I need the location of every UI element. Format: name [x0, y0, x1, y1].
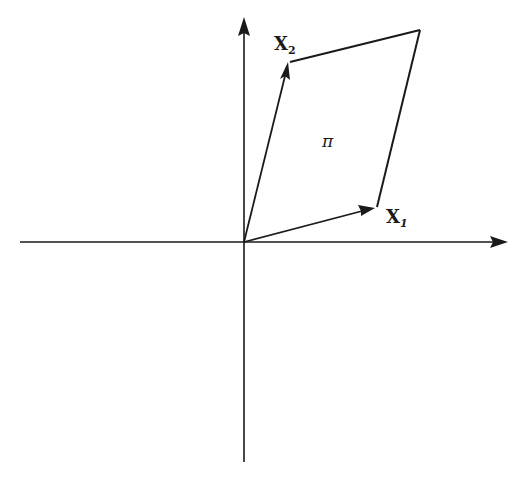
parallelogram-diagram: X2 X1 π — [0, 0, 524, 485]
label-x2: X2 — [274, 33, 296, 57]
vector-x2 — [244, 72, 286, 242]
parallelogram-edge-top — [290, 30, 420, 62]
parallelogram-edge-right — [377, 30, 420, 207]
vector-x1 — [244, 210, 366, 242]
label-region-pi: π — [321, 131, 334, 151]
label-x1: X1 — [386, 206, 408, 230]
